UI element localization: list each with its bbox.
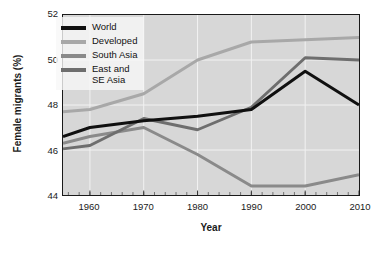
chart-legend: WorldDevelopedSouth AsiaEast and SE Asia [56, 17, 144, 90]
legend-item-3: East and SE Asia [61, 64, 137, 85]
legend-label: World [92, 22, 117, 33]
legend-label: East and SE Asia [92, 64, 130, 85]
legend-label: South Asia [92, 50, 137, 61]
x-tick-label: 1980 [177, 202, 217, 212]
x-axis-title: Year [62, 222, 360, 233]
chart-figure: 4446485052 196019701980199020002010 Fema… [0, 0, 373, 255]
y-axis-tick-labels: 4446485052 [26, 0, 58, 255]
x-tick-label: 1990 [232, 202, 272, 212]
legend-swatch-icon [61, 54, 86, 58]
x-tick-label: 2000 [286, 202, 326, 212]
legend-item-2: South Asia [61, 50, 137, 61]
x-tick-label: 1960 [69, 202, 109, 212]
x-axis-tick-labels: 196019701980199020002010 [0, 202, 373, 216]
legend-label: Developed [92, 36, 137, 47]
legend-swatch-icon [61, 26, 86, 30]
y-tick-label: 48 [32, 100, 58, 110]
y-axis-title: Female migrants (%) [12, 44, 23, 164]
y-tick-label: 50 [32, 55, 58, 65]
legend-swatch-icon [61, 40, 86, 44]
y-tick-label: 44 [32, 191, 58, 201]
y-tick-label: 52 [32, 9, 58, 19]
x-tick-label: 1970 [123, 202, 163, 212]
y-tick-label: 46 [32, 146, 58, 156]
legend-item-1: Developed [61, 36, 137, 47]
legend-swatch-icon [61, 68, 86, 72]
x-tick-label: 2010 [340, 202, 373, 212]
legend-item-0: World [61, 22, 137, 33]
